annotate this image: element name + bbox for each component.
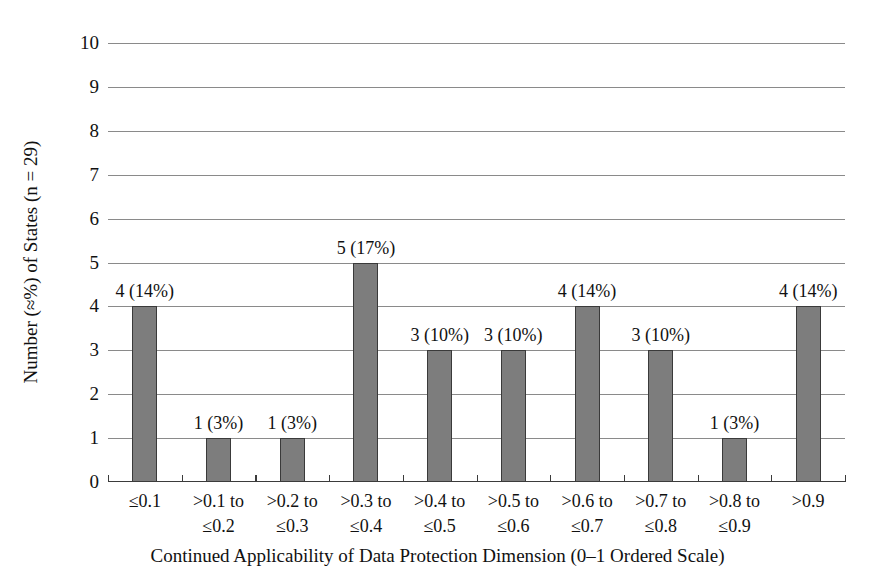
x-axis-line	[108, 481, 845, 483]
y-tick-label: 8	[90, 120, 100, 142]
bar[interactable]: 1 (3%)	[280, 438, 305, 482]
x-tick-label-line: ≤0.5	[403, 514, 477, 539]
y-tick-label: 9	[90, 76, 100, 98]
x-tick-label-line: >0.1 to	[182, 489, 256, 514]
bar[interactable]: 4 (14%)	[796, 306, 821, 482]
x-tick-label-line: >0.3 to	[329, 489, 403, 514]
x-tick-mark	[845, 475, 846, 482]
gridline	[108, 482, 845, 483]
bar-slot: 4 (14%)	[550, 43, 624, 482]
bar-value-label: 4 (14%)	[779, 281, 837, 302]
bar-slot: 5 (17%)	[329, 43, 403, 482]
x-tick-label: ≤0.1	[108, 489, 182, 539]
bar-value-label: 4 (14%)	[116, 281, 174, 302]
y-tick-label: 3	[90, 339, 100, 361]
bar-slot: 4 (14%)	[771, 43, 845, 482]
y-tick-label: 7	[90, 164, 100, 186]
x-tick-label-line: >0.6 to	[550, 489, 624, 514]
x-tick-label: >0.8 to≤0.9	[698, 489, 772, 539]
bar-value-label: 3 (10%)	[410, 325, 468, 346]
x-tick-label-line: ≤0.6	[477, 514, 551, 539]
bar[interactable]: 1 (3%)	[206, 438, 231, 482]
bar[interactable]: 4 (14%)	[575, 306, 600, 482]
bar[interactable]: 1 (3%)	[722, 438, 747, 482]
bar-slot: 3 (10%)	[403, 43, 477, 482]
x-axis-title: Continued Applicability of Data Protecti…	[0, 545, 875, 567]
x-tick-label-line: >0.9	[771, 489, 845, 514]
x-tick-label: >0.5 to≤0.6	[477, 489, 551, 539]
bar[interactable]: 4 (14%)	[132, 306, 157, 482]
y-axis-title: Number (≈%) of States (n = 29)	[18, 43, 44, 481]
bar[interactable]: 3 (10%)	[648, 350, 673, 482]
bar-value-label: 1 (3%)	[710, 413, 759, 434]
y-tick-label: 5	[90, 252, 100, 274]
x-tick-label-line: >0.7 to	[624, 489, 698, 514]
bar-value-label: 3 (10%)	[632, 325, 690, 346]
plot-area: 109876543210 4 (14%)1 (3%)1 (3%)5 (17%)3…	[108, 43, 845, 482]
x-tick-label-line: ≤0.9	[698, 514, 772, 539]
bar-slot: 1 (3%)	[182, 43, 256, 482]
bar-value-label: 5 (17%)	[337, 238, 395, 259]
x-tick-label-line: ≤0.4	[329, 514, 403, 539]
x-tick-label: >0.9	[771, 489, 845, 539]
bar-slot: 1 (3%)	[255, 43, 329, 482]
bar-slot: 3 (10%)	[477, 43, 551, 482]
bar-value-label: 3 (10%)	[484, 325, 542, 346]
y-tick-label: 2	[90, 383, 100, 405]
bar[interactable]: 5 (17%)	[353, 263, 378, 483]
bar-slot: 1 (3%)	[698, 43, 772, 482]
x-tick-label-line: >0.8 to	[698, 489, 772, 514]
x-tick-label: >0.7 to≤0.8	[624, 489, 698, 539]
bar-value-label: 4 (14%)	[558, 281, 616, 302]
x-tick-label-line: >0.4 to	[403, 489, 477, 514]
x-tick-label-line: ≤0.8	[624, 514, 698, 539]
x-tick-labels-group: ≤0.1>0.1 to≤0.2>0.2 to≤0.3>0.3 to≤0.4>0.…	[108, 489, 845, 539]
x-tick-label: >0.1 to≤0.2	[182, 489, 256, 539]
bar-slot: 4 (14%)	[108, 43, 182, 482]
bar[interactable]: 3 (10%)	[427, 350, 452, 482]
x-tick-label-line: ≤0.2	[182, 514, 256, 539]
x-tick-label-line: ≤0.7	[550, 514, 624, 539]
x-tick-label-line: ≤0.3	[255, 514, 329, 539]
bar-chart-figure: Number (≈%) of States (n = 29) 109876543…	[0, 0, 875, 583]
x-tick-label: >0.3 to≤0.4	[329, 489, 403, 539]
x-tick-label-line: >0.2 to	[255, 489, 329, 514]
bar-slot: 3 (10%)	[624, 43, 698, 482]
x-tick-label-line: >0.5 to	[477, 489, 551, 514]
x-tick-label-line: ≤0.1	[108, 489, 182, 514]
x-tick-label: >0.6 to≤0.7	[550, 489, 624, 539]
y-tick-label: 6	[90, 208, 100, 230]
bar-value-label: 1 (3%)	[194, 413, 243, 434]
y-tick-label: 0	[90, 471, 100, 493]
y-tick-label: 10	[80, 32, 99, 54]
bars-group: 4 (14%)1 (3%)1 (3%)5 (17%)3 (10%)3 (10%)…	[108, 43, 845, 482]
bar[interactable]: 3 (10%)	[501, 350, 526, 482]
bar-value-label: 1 (3%)	[268, 413, 317, 434]
x-tick-label: >0.2 to≤0.3	[255, 489, 329, 539]
x-tick-label: >0.4 to≤0.5	[403, 489, 477, 539]
y-tick-label: 4	[90, 295, 100, 317]
y-tick-label: 1	[90, 427, 100, 449]
